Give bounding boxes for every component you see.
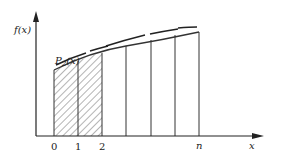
tick-label-2: 2 <box>99 141 105 152</box>
arrow-up-icon <box>33 11 39 22</box>
arrow-right-icon <box>252 133 264 139</box>
tick-label-0: 0 <box>51 141 57 152</box>
tick-label-n: n <box>196 140 202 151</box>
simpson-rule-diagram: f(x) P2(x) 0 1 2 n x <box>0 0 282 161</box>
y-axis <box>33 11 39 136</box>
x-axis-label: x <box>249 140 255 151</box>
tick-label-1: 1 <box>75 141 81 152</box>
y-axis-label: f(x) <box>13 24 31 35</box>
